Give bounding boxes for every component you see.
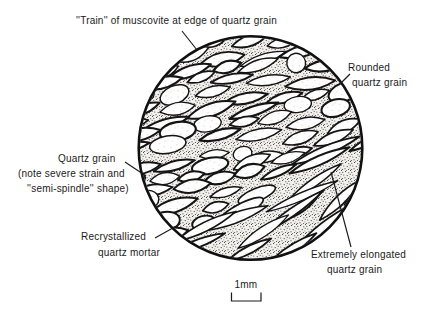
- label-elongated-grain-line1: Extremely elongated: [311, 249, 406, 260]
- label-rounded-grain-line1: Rounded: [348, 62, 390, 73]
- scale-bar-label: 1mm: [229, 279, 263, 290]
- label-rounded-grain-line2: quartz grain: [352, 77, 407, 88]
- leader-line-muscovite-train: [182, 31, 197, 50]
- leader-line-rounded-grain: [341, 74, 350, 83]
- label-elongated-grain-line2: quartz grain: [327, 264, 382, 275]
- label-strained-grain-line1: Quartz grain: [58, 153, 115, 164]
- label-quartz-mortar-line2: quartz mortar: [98, 247, 160, 258]
- label-muscovite-train: ''Train'' of muscovite at edge of quartz…: [76, 15, 277, 26]
- label-quartz-mortar-line1: Recrystallized: [81, 231, 146, 242]
- scale-bar-bracket: [232, 293, 262, 302]
- figure-canvas: ''Train'' of muscovite at edge of quartz…: [0, 0, 438, 319]
- label-strained-grain-line3: ''semi-spindle'' shape): [27, 183, 129, 194]
- label-strained-grain-line2: (note severe strain and: [18, 168, 125, 179]
